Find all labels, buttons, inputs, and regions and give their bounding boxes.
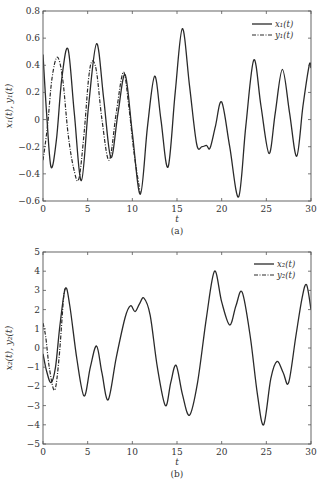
x-tick-label: 30 xyxy=(305,204,317,214)
y-tick-label: 0 xyxy=(34,115,40,125)
y-tick-label: −0.6 xyxy=(18,196,40,206)
y-tick-label: 0.4 xyxy=(26,60,41,70)
y-tick-label: 0.2 xyxy=(26,87,40,97)
plot-b: 051015202530−5−4−3−2−1012345t(b)x₂(t), y… xyxy=(4,247,317,479)
x-tick-label: 15 xyxy=(171,447,183,457)
plot-a: 051015202530−0.6−0.4−0.200.20.40.60.8t(a… xyxy=(4,6,317,236)
series-x-line xyxy=(43,271,311,425)
y-tick-label: 0.8 xyxy=(26,6,41,16)
x-tick-label: 0 xyxy=(40,447,46,457)
y-tick-label: −5 xyxy=(27,439,41,449)
legend-label-y: y₁(t) xyxy=(274,30,293,40)
x-tick-label: 25 xyxy=(261,447,273,457)
legend-label-x: x₂(t) xyxy=(277,259,295,269)
y-tick-label: 1 xyxy=(34,324,40,334)
y-tick-label: −0.4 xyxy=(18,169,40,179)
y-tick-label: −0.2 xyxy=(18,142,40,152)
x-tick-label: 0 xyxy=(40,204,46,214)
y-tick-label: 2 xyxy=(34,305,40,315)
figure-caption: (a) xyxy=(171,226,183,236)
axes-frame xyxy=(43,252,311,444)
x-tick-label: 10 xyxy=(127,447,139,457)
y-tick-label: 4 xyxy=(34,266,40,276)
y-tick-label: 3 xyxy=(34,285,40,295)
x-tick-label: 25 xyxy=(261,204,273,214)
legend: x₁(t)y₁(t) xyxy=(252,19,293,40)
y-tick-label: −4 xyxy=(27,420,41,430)
y-tick-label: 0 xyxy=(34,343,40,353)
y-tick-label: −3 xyxy=(27,401,41,411)
y-tick-label: −1 xyxy=(27,362,40,372)
figure-caption: (b) xyxy=(171,469,184,479)
x-tick-label: 5 xyxy=(85,447,91,457)
x-tick-label: 15 xyxy=(171,204,183,214)
x-tick-label: 10 xyxy=(127,204,139,214)
x-tick-label: 20 xyxy=(216,447,228,457)
x-axis-label: t xyxy=(175,214,179,224)
figure: 051015202530−0.6−0.4−0.200.20.40.60.8t(a… xyxy=(0,0,324,490)
legend-label-x: x₁(t) xyxy=(275,19,293,29)
series-x-line xyxy=(43,29,311,198)
legend-label-y: y₂(t) xyxy=(276,270,295,280)
y-tick-label: −2 xyxy=(27,381,40,391)
y-axis-label: x₁(t), y₁(t) xyxy=(4,83,14,128)
y-tick-label: 5 xyxy=(34,247,40,257)
y-axis-label: x₂(t), y₂(t) xyxy=(4,325,14,370)
x-tick-label: 5 xyxy=(85,204,91,214)
x-axis-label: t xyxy=(175,457,179,467)
legend: x₂(t)y₂(t) xyxy=(254,259,295,280)
y-tick-label: 0.6 xyxy=(26,33,41,43)
x-tick-label: 20 xyxy=(216,204,228,214)
x-tick-label: 30 xyxy=(305,447,317,457)
